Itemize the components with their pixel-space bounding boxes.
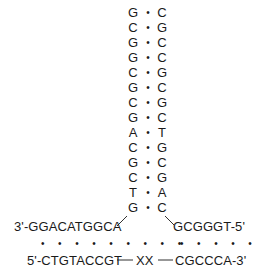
bottom-left-strand: 5'-CTGTACCGT (27, 253, 122, 268)
bottom-right-strand: CGCCCA-3' (175, 253, 246, 268)
right-base-pair-dots: • • • • • • (180, 238, 256, 250)
top-right-strand: GCGGGT-5' (173, 219, 245, 234)
left-base-pair-dots: • • • • • • • • • (41, 238, 187, 250)
bottom-linker-xx: XX (136, 253, 154, 268)
top-left-strand: 3'-GGACATGGCA (14, 219, 122, 234)
